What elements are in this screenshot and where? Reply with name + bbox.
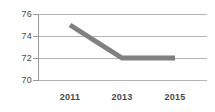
y-tick-mark-72 bbox=[33, 58, 38, 59]
y-tick-label-70: 70 bbox=[4, 76, 32, 85]
x-tick-label-2013: 2013 bbox=[102, 92, 142, 102]
line-chart: 76 74 72 70 2011 2013 2015 bbox=[0, 0, 215, 112]
y-tick-label-74: 74 bbox=[4, 32, 32, 41]
y-tick-mark-70 bbox=[33, 80, 38, 81]
gridline-72 bbox=[38, 58, 207, 59]
x-tick-label-2011: 2011 bbox=[50, 92, 90, 102]
plot-area bbox=[38, 8, 207, 86]
y-tick-label-72: 72 bbox=[4, 54, 32, 63]
y-axis-line bbox=[38, 14, 39, 81]
gridline-70 bbox=[38, 80, 207, 81]
y-tick-label-76: 76 bbox=[4, 10, 32, 19]
x-axis-labels: 2011 2013 2015 bbox=[0, 92, 215, 106]
y-tick-mark-76 bbox=[33, 14, 38, 15]
gridline-74 bbox=[38, 36, 207, 37]
y-tick-mark-74 bbox=[33, 36, 38, 37]
x-tick-label-2015: 2015 bbox=[155, 92, 195, 102]
gridline-76 bbox=[38, 14, 207, 15]
